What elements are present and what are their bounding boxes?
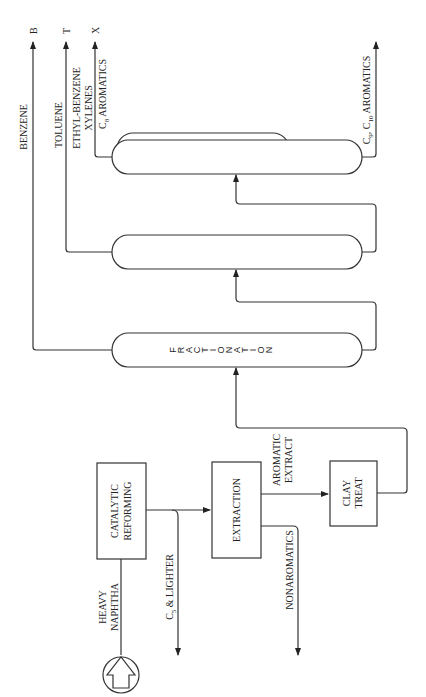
product-tag-benzene: B <box>28 27 39 34</box>
xylenes-label: XYLENES <box>83 85 94 131</box>
diagram-canvas: F R A C T I O N A T I O N CATALYTIC REFO… <box>0 0 426 697</box>
clay-label-2: TREAT <box>353 477 364 508</box>
clay-to-fractionation-line <box>236 368 407 493</box>
reforming-label-1: CATALYTIC <box>109 484 120 538</box>
reforming-label-2: REFORMING <box>122 482 133 541</box>
column-c8-splitter <box>112 140 362 174</box>
c9-c10-aromatics-label: C9, C10 AROMATICS <box>361 56 375 145</box>
aromatic-extract-label-2: EXTRACT <box>283 437 294 483</box>
feed-arrow-in-circle-icon <box>103 657 139 693</box>
product-tag-toluene: T <box>61 28 72 34</box>
clay-label-1: CLAY <box>341 480 352 506</box>
benzene-label: BENZENE <box>18 104 29 150</box>
extraction-label: EXTRACTION <box>231 478 242 542</box>
aromatic-extract-label-1: AROMATIC <box>271 434 282 487</box>
heavy-label: HEAVY <box>97 590 108 624</box>
svg-text:N: N <box>264 347 274 354</box>
toluene-label: TOLUENE <box>53 102 64 148</box>
product-tag-xylene: X <box>90 26 101 34</box>
c5-lighter-label: C5 & LIGHTER <box>164 554 178 620</box>
ethylbenzene-label: ETHYL-BENZENE <box>71 67 82 149</box>
nonaromatics-label: NONAROMATICS <box>284 530 295 609</box>
c8-aromatics-label: C8 AROMATICS <box>97 59 111 129</box>
naphtha-label: NAPHTHA <box>109 582 120 631</box>
fractionation-label: F R A C T I O N A T I O N <box>168 346 274 353</box>
column-toluene <box>112 235 362 269</box>
